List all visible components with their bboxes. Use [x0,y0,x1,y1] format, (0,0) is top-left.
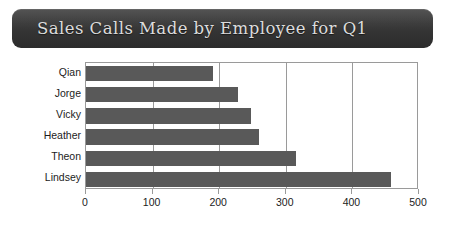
y-label-vicky: Vicky [0,108,81,120]
y-label-qian: Qian [0,66,81,78]
bar-lindsey [86,172,391,187]
bar-heather [86,129,259,144]
x-axis: 0100200300400500 [85,189,418,217]
x-tick-200 [218,189,219,194]
bar-row [86,66,417,81]
bars-layer [86,63,417,188]
chart-title-banner: Sales Calls Made by Employee for Q1 [12,9,433,48]
x-tick-label-0: 0 [82,196,88,208]
chart-title: Sales Calls Made by Employee for Q1 [37,9,368,48]
y-axis-category-labels: QianJorgeVickyHeatherTheonLindsey [0,62,81,189]
bar-jorge [86,87,238,102]
x-tick-300 [285,189,286,194]
plot-area [85,62,418,189]
x-tick-label-100: 100 [143,196,161,208]
y-label-heather: Heather [0,129,81,141]
y-label-jorge: Jorge [0,87,81,99]
x-tick-100 [152,189,153,194]
bar-row [86,87,417,102]
bar-theon [86,151,296,166]
x-tick-label-200: 200 [209,196,227,208]
x-tick-500 [418,189,419,194]
y-label-lindsey: Lindsey [0,171,81,183]
bar-qian [86,66,213,81]
y-label-theon: Theon [0,150,81,162]
bar-chart-figure: Sales Calls Made by Employee for Q1 Qian… [0,0,452,231]
x-tick-label-500: 500 [409,196,427,208]
x-tick-0 [85,189,86,194]
x-tick-label-300: 300 [276,196,294,208]
x-tick-400 [351,189,352,194]
bar-row [86,108,417,123]
x-tick-label-400: 400 [343,196,361,208]
bar-row [86,172,417,187]
bar-row [86,129,417,144]
bar-row [86,151,417,166]
bar-vicky [86,108,251,123]
